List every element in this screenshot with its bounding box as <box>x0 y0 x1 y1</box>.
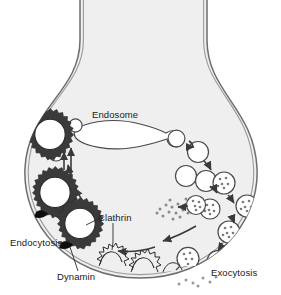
filled-vesicle-1 <box>213 172 235 194</box>
diagram-canvas: Endosome Clathrin Endocytosis Dynamin Ex… <box>0 0 281 295</box>
label-dynamin: Dynamin <box>57 271 95 282</box>
vesicle-lumen-1 <box>35 119 65 149</box>
empty-vesicle-1 <box>188 142 209 163</box>
filled-vesicle-5 <box>187 196 206 215</box>
filled-vesicle-3 <box>236 195 258 217</box>
label-endocytosis: Endocytosis <box>10 237 62 248</box>
vesicle-lumen-3 <box>65 208 95 238</box>
label-clathrin: Clathrin <box>98 212 132 223</box>
filled-vesicle-4 <box>218 221 240 243</box>
label-exocytosis: Exocytosis <box>211 267 258 278</box>
endosome-right-bud <box>168 130 185 147</box>
vesicle-lumen-2 <box>40 177 70 207</box>
label-endosome: Endosome <box>92 109 138 120</box>
synaptic-vesicle-cycle-figure: Endosome Clathrin Endocytosis Dynamin Ex… <box>0 0 281 295</box>
empty-vesicle-2 <box>176 166 197 187</box>
